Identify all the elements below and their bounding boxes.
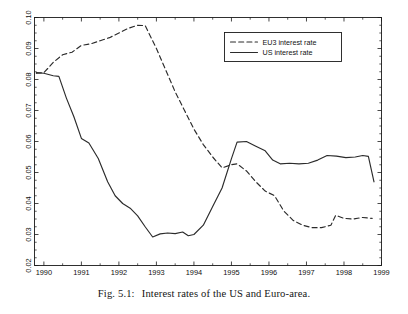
x-tick-label: 1997: [298, 268, 314, 277]
legend-label: US interest rate: [263, 48, 313, 57]
figure-container: 0.020.030.040.050.060.070.080.090.10 199…: [0, 0, 408, 314]
y-tick-label: 0.03: [24, 227, 33, 241]
x-tick-label: 1993: [148, 268, 164, 277]
caption-description: Interest rates of the US and Euro-area.: [142, 288, 311, 299]
y-axis-tick-labels: 0.020.030.040.050.060.070.080.090.10: [24, 10, 33, 272]
y-tick-label: 0.02: [24, 258, 33, 272]
y-tick-label: 0.04: [24, 196, 33, 210]
x-tick-label: 1994: [186, 268, 202, 277]
figure-caption: Fig. 5.1:Interest rates of the US and Eu…: [0, 288, 408, 299]
caption-figure-number: Fig. 5.1:: [98, 288, 135, 299]
x-tick-label: 1990: [36, 268, 52, 277]
y-tick-label: 0.07: [24, 103, 33, 117]
interest-rates-line-chart: 0.020.030.040.050.060.070.080.090.10 199…: [0, 0, 408, 314]
x-tick-label: 1999: [373, 268, 389, 277]
x-tick-label: 1992: [111, 268, 127, 277]
legend-label: EU3 interest rate: [263, 38, 317, 47]
y-tick-label: 0.06: [24, 134, 33, 148]
chart-legend: EU3 interest rateUS interest rate: [225, 33, 342, 62]
y-tick-label: 0.09: [24, 41, 33, 55]
x-tick-label: 1991: [73, 268, 89, 277]
y-tick-label: 0.08: [24, 72, 33, 86]
x-axis-tick-labels: 1990199119921993199419951996199719981999: [36, 268, 390, 277]
x-tick-label: 1995: [223, 268, 239, 277]
x-tick-label: 1996: [261, 268, 277, 277]
x-tick-label: 1998: [336, 268, 352, 277]
y-tick-label: 0.10: [24, 10, 33, 24]
series-line-us-interest-rate: [36, 73, 374, 237]
y-tick-label: 0.05: [24, 165, 33, 179]
